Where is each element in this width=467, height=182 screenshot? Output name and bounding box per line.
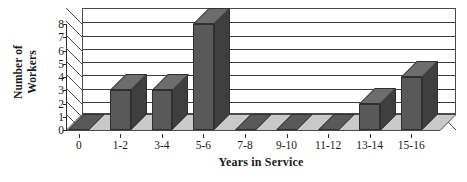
x-axis-tick-label: 3-4	[154, 139, 169, 152]
y-axis-tick-mark	[63, 90, 67, 91]
y-axis-depth-tick	[66, 74, 82, 90]
y-axis-tick-labels: 012345678	[51, 8, 64, 130]
y-axis-tick-mark	[63, 64, 67, 65]
x-axis-tick-labels: 01-23-45-67-89-1011-1213-1415-16	[66, 134, 456, 150]
x-axis-tick-mark	[370, 134, 371, 138]
y-axis-tick-mark	[63, 117, 67, 118]
bar	[318, 114, 339, 130]
x-axis-tick-label: 0	[76, 139, 82, 152]
x-axis-tick-mark	[162, 134, 163, 138]
bar-front-face	[152, 90, 173, 130]
gridline	[83, 49, 455, 50]
gridline	[83, 36, 455, 37]
bar-front-face	[193, 24, 214, 130]
y-axis-tick-mark	[63, 37, 67, 38]
y-axis-tick-mark	[63, 104, 67, 105]
x-axis-tick-label: 9-10	[276, 139, 297, 152]
x-axis-tick-mark	[79, 134, 80, 138]
x-axis-title: Years in Service	[66, 155, 456, 170]
x-axis-tick-mark	[120, 134, 121, 138]
plot-area	[66, 8, 456, 130]
bar	[110, 74, 131, 130]
bar	[276, 114, 297, 130]
bar-front-face	[359, 104, 380, 131]
y-axis-tick-mark	[63, 51, 67, 52]
bar	[193, 8, 214, 130]
x-axis-tick-label: 7-8	[237, 139, 252, 152]
bar	[152, 74, 173, 130]
x-axis-tick-label: 15-16	[398, 139, 425, 152]
bar-front-face	[401, 77, 422, 130]
y-axis-depth-tick	[66, 48, 82, 64]
x-axis-tick-mark	[411, 134, 412, 138]
y-axis-tick-mark	[63, 130, 67, 131]
y-axis-title-line-2: Workers	[25, 45, 39, 99]
gridline	[83, 22, 455, 23]
y-axis-title-text: Number of Workers	[11, 45, 39, 99]
bar	[401, 61, 422, 130]
chart-side-wall-edge	[455, 8, 456, 115]
bar-front-face	[110, 90, 131, 130]
y-axis-title: Number of Workers	[0, 8, 50, 136]
x-axis-tick-label: 11-12	[315, 139, 341, 152]
y-axis-tick-mark	[63, 77, 67, 78]
bar-side-face	[214, 8, 230, 130]
bar	[235, 114, 256, 130]
x-axis-tick-label: 1-2	[113, 139, 128, 152]
y-axis-depth-tick	[66, 88, 82, 104]
bar	[68, 114, 89, 130]
x-axis-tick-mark	[245, 134, 246, 138]
gridline	[83, 62, 455, 63]
x-axis-tick-mark	[287, 134, 288, 138]
x-axis-tick-mark	[328, 134, 329, 138]
x-axis-tick-label: 13-14	[356, 139, 383, 152]
y-axis-depth-tick	[66, 61, 82, 77]
x-axis-tick-mark	[203, 134, 204, 138]
x-axis-tick-label: 5-6	[196, 139, 211, 152]
y-axis-title-line-1: Number of	[12, 45, 24, 99]
y-axis-depth-connector	[66, 8, 82, 24]
bar	[359, 88, 380, 131]
y-axis-depth-tick	[66, 35, 82, 51]
bar-chart: Number of Workers 012345678 01-23-45-67-…	[0, 0, 467, 182]
y-axis-tick-mark	[63, 24, 67, 25]
